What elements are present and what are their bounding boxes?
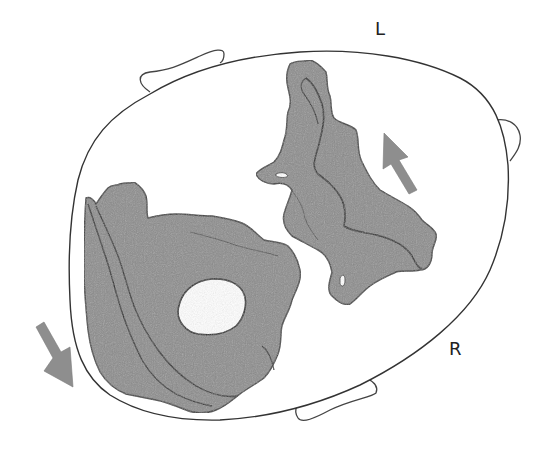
diagram-canvas: L R: [0, 0, 554, 452]
diagram-svg: [0, 0, 554, 452]
label-left: L: [375, 20, 385, 38]
arrow-down-right-icon: [36, 322, 73, 387]
label-right: R: [449, 340, 462, 358]
